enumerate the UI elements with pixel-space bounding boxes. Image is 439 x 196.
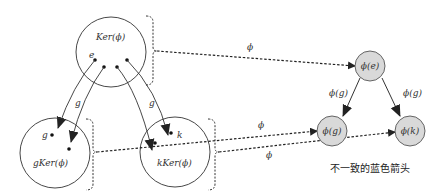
arrow-g-to-kcoset [117,67,152,150]
element-g-dot [50,133,54,137]
coset-g-brace [86,119,97,190]
svg-text:ϕ(k): ϕ(k) [401,126,420,136]
coset-g-label: gKer(ϕ) [33,158,69,168]
node-phi-g: ϕ(g) [317,116,347,146]
phi-label-top: ϕ [247,42,253,52]
arrow-g-to-g [58,60,95,128]
edge-e-to-k [382,78,400,116]
arrow-g-to-k [127,60,168,135]
element-e-label: e [89,50,94,60]
coset-element-dot [67,147,71,151]
element-k-label: k [177,130,182,140]
phi-map-coset-k [219,132,395,152]
node-phi-k: ϕ(k) [395,116,425,146]
edge-label-left: ϕ(g) [329,88,348,98]
kernel-set: Ker(ϕ) e [76,17,146,87]
element-k-dot [169,131,173,135]
coset-g: g gKer(ϕ) [20,118,90,188]
kernel-brace [146,16,157,85]
coset-element-dot [153,141,157,145]
kernel-label: Ker(ϕ) [95,32,126,42]
svg-text:ϕ(g): ϕ(g) [323,126,342,136]
group-homomorphism-diagram: Ker(ϕ) e g g g gKer(ϕ) k kKer(ϕ) ϕ ϕ ϕ ϕ… [0,0,439,196]
phi-label-low: ϕ [266,150,272,160]
phi-map-kernel [157,51,355,66]
edge-label-right: ϕ(g) [403,88,422,98]
arrow-label-g-left: g [75,98,81,108]
arrow-label-g-right: g [149,98,155,108]
phi-label-mid: ϕ [258,120,264,130]
coset-k: k kKer(ϕ) [140,117,210,187]
phi-map-coset-g [97,131,317,152]
coset-k-label: kKer(ϕ) [157,158,192,168]
caption: 不一致的蓝色箭头 [330,162,410,174]
svg-text:ϕ(e): ϕ(e) [361,61,380,71]
node-phi-e: ϕ(e) [355,51,385,81]
element-g-label: g [42,130,48,140]
